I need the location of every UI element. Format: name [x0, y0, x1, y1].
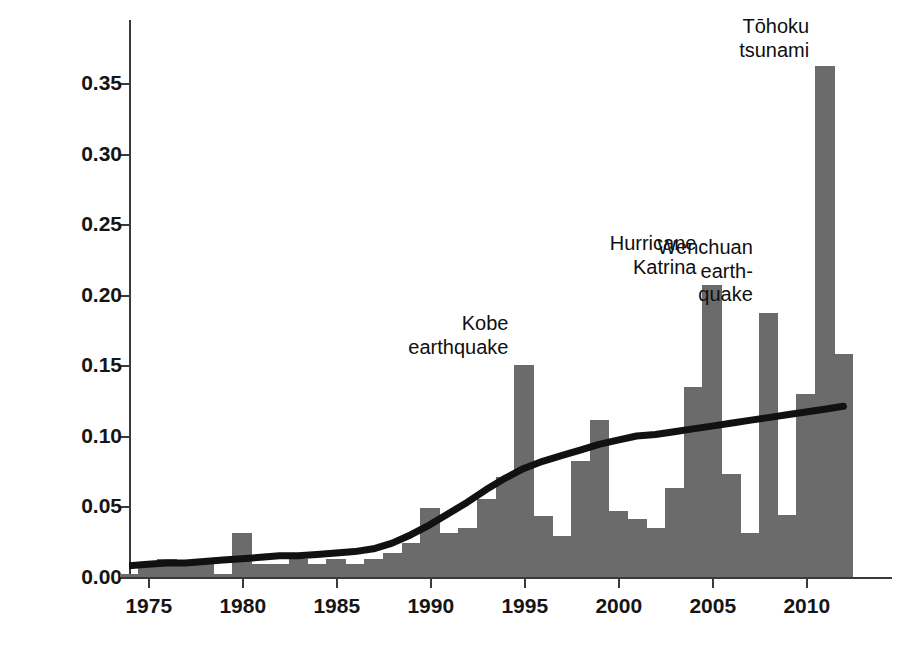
x-tick-mark-1990 [430, 578, 432, 588]
x-tick-label-1995: 1995 [501, 594, 548, 618]
x-tick-mark-2010 [806, 578, 808, 588]
plot-area: 0.000.050.100.150.200.250.300.35 1975198… [129, 20, 892, 577]
annotation-wenchuan-line1: Wenchuan [658, 236, 753, 258]
y-tick-label: 0.15 [81, 353, 122, 377]
y-tick-label: 0.30 [81, 142, 122, 166]
y-tick-label: 0.00 [81, 565, 122, 589]
annotation-wenchuan-line3: quake [698, 284, 753, 306]
x-tick-label-2010: 2010 [783, 594, 830, 618]
y-tick-label: 0.05 [81, 494, 122, 518]
chart-figure: Estimated Damage (US$ billion) 0.000.050… [0, 0, 907, 661]
y-tick-label: 0.35 [81, 71, 122, 95]
y-tick-label: 0.20 [81, 283, 122, 307]
x-tick-label-1975: 1975 [125, 594, 172, 618]
annotation-kobe: Kobe earthquake [408, 312, 508, 359]
annotation-wenchuan: Wenchuan earth- quake [658, 236, 753, 307]
x-tick-mark-1975 [148, 578, 150, 588]
x-tick-mark-1985 [336, 578, 338, 588]
x-tick-mark-1980 [242, 578, 244, 588]
annotation-layer: Kobe earthquake Hurricane Katrina Wenchu… [129, 20, 892, 577]
x-tick-label-2000: 2000 [595, 594, 642, 618]
x-tick-mark-2000 [618, 578, 620, 588]
annotation-kobe-line2: earthquake [408, 336, 508, 358]
annotation-wenchuan-line2: earth- [701, 260, 753, 282]
y-tick-label: 0.25 [81, 212, 122, 236]
y-axis-title: Estimated Damage (US$ billion) [0, 0, 34, 661]
x-tick-label-1990: 1990 [407, 594, 454, 618]
x-tick-label-1980: 1980 [219, 594, 266, 618]
annotation-kobe-line1: Kobe [462, 312, 509, 334]
annotation-tohoku-line1: Tōhoku [742, 15, 809, 37]
y-tick-label: 0.10 [81, 424, 122, 448]
annotation-tohoku-line2: tsunami [739, 39, 809, 61]
x-tick-mark-1995 [524, 578, 526, 588]
x-tick-label-1985: 1985 [313, 594, 360, 618]
annotation-tohoku: Tōhoku tsunami [739, 15, 809, 62]
x-tick-label-2005: 2005 [689, 594, 736, 618]
x-tick-mark-2005 [712, 578, 714, 588]
